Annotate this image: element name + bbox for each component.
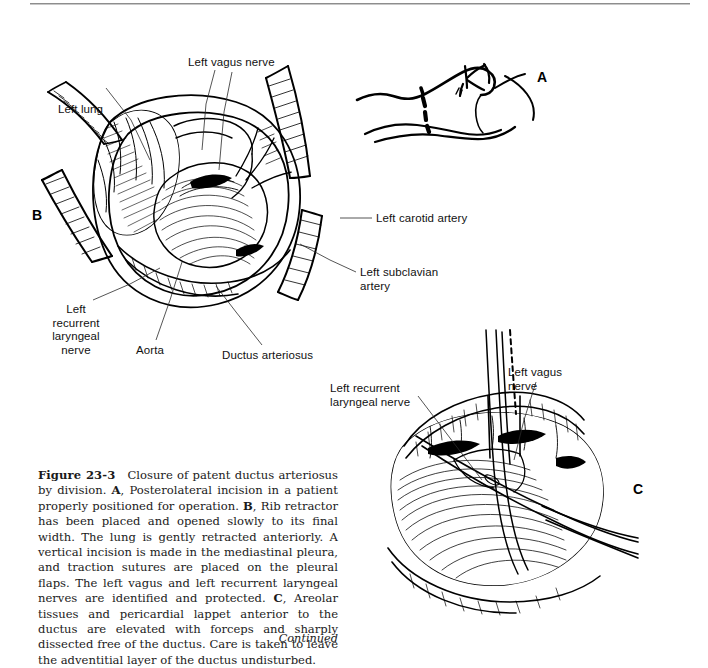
label-left-recurrent-laryngeal-nerve: Left recurrent laryngeal nerve [38,303,114,357]
caption-sentence-b: , Rib retractor has been placed and open… [38,499,338,605]
label-left-vagus-nerve: Left vagus nerve [188,56,275,70]
panel-c-leader-lines [300,320,708,664]
figure-number: Figure 23-3 [38,468,115,482]
label-left-carotid-artery: Left carotid artery [376,212,467,226]
caption-bold-a: A [112,483,121,497]
caption-bold-c: C [273,591,282,605]
label-left-vagus-nerve-c: Left vagus nerve [508,366,562,393]
continued-note: Continued [38,632,338,645]
caption-bold-b: B [243,499,253,513]
label-left-lung: Left lung [58,103,103,117]
label-left-recurrent-laryngeal-nerve-c: Left recurrent laryngeal nerve [330,382,410,409]
label-left-subclavian-artery: Left subclavian artery [360,266,438,293]
label-aorta: Aorta [136,344,164,358]
